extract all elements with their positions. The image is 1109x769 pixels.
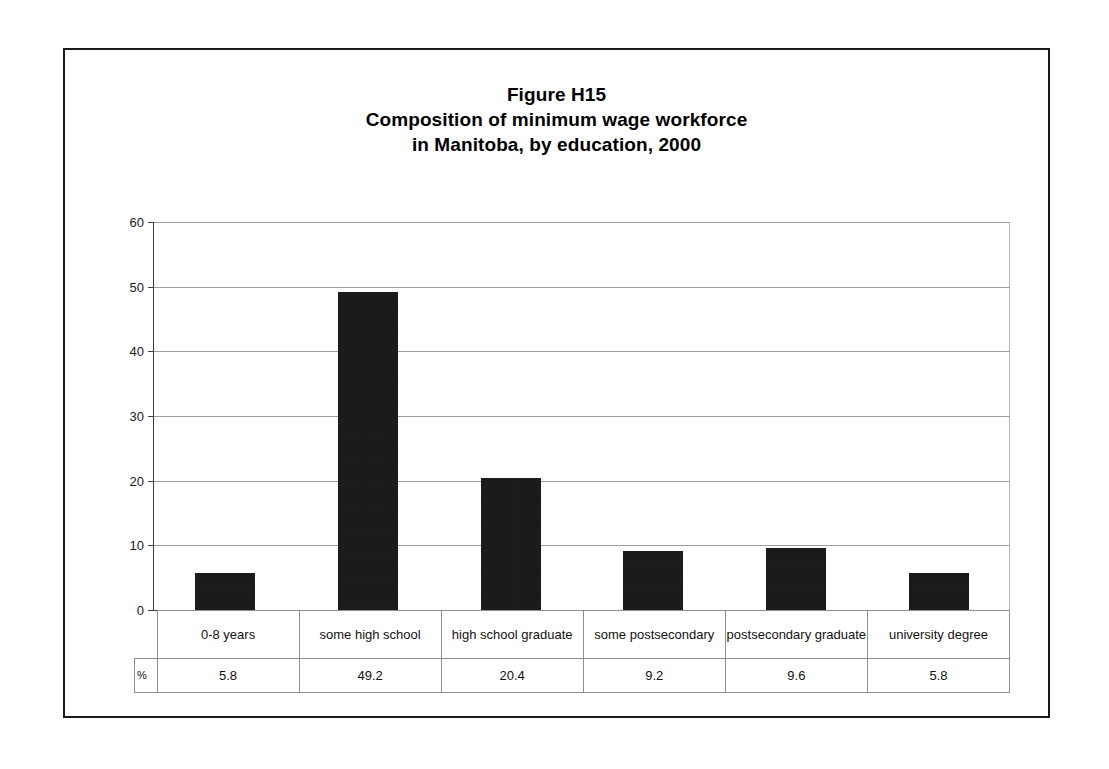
y-tick-label-10: 10	[114, 539, 144, 552]
title-line-2: Composition of minimum wage workforce	[65, 107, 1048, 132]
y-tick-label-20: 20	[114, 475, 144, 488]
value-cell: 9.6	[725, 659, 867, 693]
title-line-3: in Manitoba, by education, 2000	[65, 132, 1048, 157]
category-cell: postsecondary graduate	[725, 611, 867, 659]
value-cell: 20.4	[441, 659, 583, 693]
y-tick-label-50: 50	[114, 281, 144, 294]
y-tick-label-60: 60	[114, 216, 144, 229]
gridline-10	[154, 545, 1010, 546]
stub-cell-blank	[135, 611, 158, 659]
gridline-30	[154, 416, 1010, 417]
plot-area	[154, 222, 1010, 610]
gridline-50	[154, 287, 1010, 288]
gridline-40	[154, 351, 1010, 352]
y-tick-mark-20	[148, 481, 154, 482]
category-cell: high school graduate	[441, 611, 583, 659]
y-tick-mark-40	[148, 351, 154, 352]
gridline-60	[154, 222, 1010, 223]
category-cell: some high school	[299, 611, 441, 659]
value-cell: 5.8	[157, 659, 299, 693]
figure-frame: Figure H15 Composition of minimum wage w…	[63, 48, 1050, 718]
value-cell: 9.2	[583, 659, 725, 693]
y-tick-label-40: 40	[114, 345, 144, 358]
y-tick-label-30: 30	[114, 410, 144, 423]
data-table: 0-8 yearssome high schoolhigh school gra…	[134, 610, 1010, 693]
table-row-values: % 5.849.220.49.29.65.8	[135, 659, 1010, 693]
gridline-20	[154, 481, 1010, 482]
chart-title-block: Figure H15 Composition of minimum wage w…	[65, 82, 1048, 157]
y-tick-mark-60	[148, 222, 154, 223]
stub-cell-unit: %	[135, 659, 158, 693]
y-tick-mark-10	[148, 545, 154, 546]
category-cell: 0-8 years	[157, 611, 299, 659]
value-cell: 5.8	[867, 659, 1009, 693]
y-tick-mark-30	[148, 416, 154, 417]
value-cell: 49.2	[299, 659, 441, 693]
title-line-1: Figure H15	[65, 82, 1048, 107]
table-row-categories: 0-8 yearssome high schoolhigh school gra…	[135, 611, 1010, 659]
y-tick-mark-50	[148, 287, 154, 288]
category-cell: some postsecondary	[583, 611, 725, 659]
category-cell: university degree	[867, 611, 1009, 659]
